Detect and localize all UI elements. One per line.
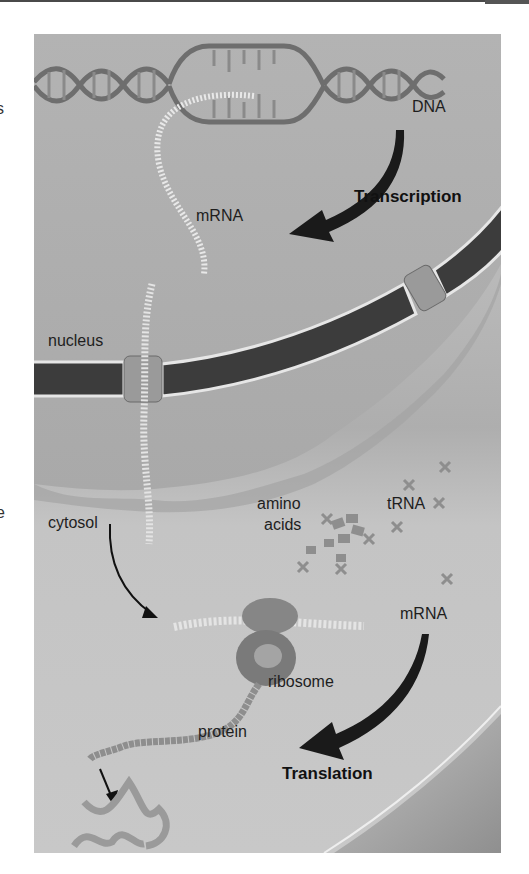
top-corner-block [485,0,529,4]
label-translation: Translation [282,765,373,782]
label-ribosome: ribosome [268,674,334,690]
label-transcription: Transcription [354,188,462,205]
translation-arrow [299,634,429,760]
label-acids: acids [264,517,301,533]
label-cytosol: cytosol [48,515,98,531]
label-dna: DNA [412,99,446,115]
label-protein: protein [198,724,247,740]
label-mrna-top: mRNA [196,208,243,224]
folded-protein [74,782,166,846]
export-arrow [110,524,152,614]
cropped-text-fragment: e [0,504,5,522]
trna-amino-acids [306,514,365,562]
label-amino: amino [257,496,301,512]
diagram-illustration [34,34,501,853]
label-nucleus: nucleus [48,333,103,349]
protein-chain [90,684,259,759]
top-rule [0,0,529,2]
cropped-text-fragment: s [0,100,4,118]
label-trna: tRNA [387,496,425,512]
figure-panel: DNA Transcription mRNA nucleus cytosol a… [34,34,501,853]
label-mrna-bottom: mRNA [400,606,447,622]
